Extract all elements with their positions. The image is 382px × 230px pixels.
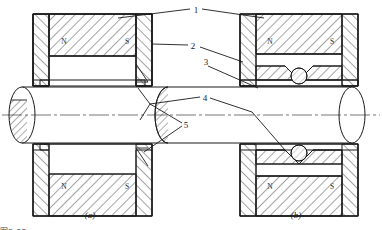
shaft-left-hatch <box>9 100 27 143</box>
figure-number-footnote: 图5-22 <box>0 225 70 230</box>
panel-b-lower-housing <box>240 144 358 216</box>
callout-labels: 1 2 3 4 5 <box>184 5 209 130</box>
shaft <box>2 87 380 143</box>
seal-element-lower <box>291 145 307 161</box>
panel-a-upper-housing <box>33 14 152 86</box>
figure-canvas: N S N S N S N S 1 2 3 4 5 (a) (b) 图5-22 <box>0 0 382 230</box>
pole-label: S <box>330 182 334 191</box>
callout-label-4: 4 <box>203 93 208 103</box>
pole-label: N <box>61 182 67 191</box>
callout-label-5: 5 <box>184 120 189 130</box>
callout-label-1: 1 <box>194 5 199 15</box>
pole-label: S <box>125 182 129 191</box>
seal-element-upper <box>291 68 307 84</box>
leader-2-left <box>152 44 188 45</box>
callout-label-3: 3 <box>204 57 209 67</box>
pole-label: N <box>61 37 67 46</box>
cross-section-drawing: N S N S N S N S 1 2 3 4 5 (a) (b) <box>0 0 382 230</box>
pole-label: N <box>267 37 273 46</box>
caption-b: (b) <box>291 210 302 220</box>
panel-a-lower-housing <box>33 144 152 216</box>
leader-4-right <box>210 98 285 150</box>
leader-4-left <box>140 97 200 120</box>
pole-label: S <box>330 37 334 46</box>
callout-label-2: 2 <box>191 41 196 51</box>
pole-label: S <box>125 37 129 46</box>
pole-label: N <box>267 182 273 191</box>
caption-a: (a) <box>85 210 96 220</box>
panel-b-upper-housing <box>240 14 358 86</box>
leader-5c <box>138 88 150 104</box>
